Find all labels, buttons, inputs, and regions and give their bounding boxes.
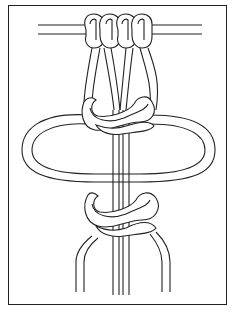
square-knot-upper [82, 97, 154, 135]
mount-knot-left [85, 14, 120, 48]
filler-cords [113, 110, 129, 295]
square-knot-lower [85, 193, 159, 237]
macrame-knot-illustration [0, 0, 239, 317]
mount-knot-right [117, 14, 152, 48]
